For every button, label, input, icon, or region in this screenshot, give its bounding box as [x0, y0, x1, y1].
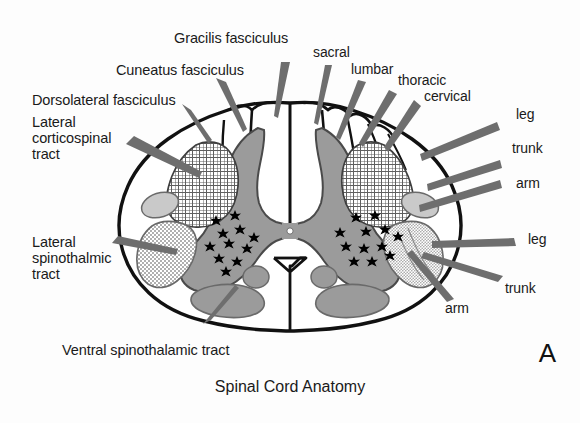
- panel-letter: A: [539, 338, 556, 369]
- label-lateral-corticospinal-tract: Lateral corticospinal tract: [32, 114, 111, 163]
- label-lumbar: lumbar: [351, 62, 393, 78]
- label-lcst-line3: tract: [32, 146, 111, 162]
- label-spinothalamic-arm: arm: [445, 301, 469, 317]
- figure-title: Spinal Cord Anatomy: [0, 378, 580, 396]
- label-sacral: sacral: [313, 45, 350, 61]
- central-canal: [287, 228, 293, 234]
- label-gracilis-fasciculus: Gracilis fasciculus: [174, 30, 288, 46]
- label-cuneatus-fasciculus: Cuneatus fasciculus: [116, 62, 244, 78]
- label-corticospinal-trunk: trunk: [512, 141, 543, 157]
- label-ventral-spinothalamic-tract: Ventral spinothalamic tract: [62, 342, 229, 358]
- label-lateral-spinothalmic-tract: Lateral spinothalmic tract: [32, 234, 111, 283]
- label-corticospinal-leg: leg: [516, 107, 534, 123]
- label-dorsolateral-fasciculus: Dorsolateral fasciculus: [32, 92, 176, 108]
- label-lsth-line3: tract: [32, 266, 111, 282]
- label-cervical: cervical: [424, 89, 471, 105]
- label-thoracic: thoracic: [398, 73, 446, 89]
- spinal-cord-diagram: [0, 0, 580, 423]
- label-lcst-line2: corticospinal: [32, 130, 111, 146]
- label-lcst-line1: Lateral: [32, 114, 111, 130]
- pointer-cst-leg: [420, 122, 500, 161]
- label-lsth-line2: spinothalmic: [32, 250, 111, 266]
- label-corticospinal-arm: arm: [516, 176, 540, 192]
- label-lsth-line1: Lateral: [32, 234, 111, 250]
- figure-canvas: Gracilis fasciculus Cuneatus fasciculus …: [0, 0, 580, 423]
- label-spinothalamic-trunk: trunk: [505, 281, 536, 297]
- label-spinothalamic-leg: leg: [528, 232, 546, 248]
